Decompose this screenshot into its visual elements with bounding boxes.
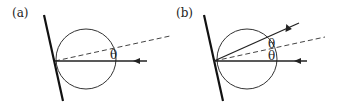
angle-theta-label-lower: θ bbox=[268, 49, 275, 63]
reflection-diagram: (a) θ (b) θ θ bbox=[0, 0, 340, 111]
panel-b-label: (b) bbox=[176, 6, 193, 20]
panel-a: (a) θ bbox=[12, 6, 170, 101]
angle-theta-label: θ bbox=[110, 48, 117, 62]
incident-arrow-icon bbox=[294, 58, 301, 64]
mirror-surface bbox=[44, 15, 63, 101]
incident-arrow-icon bbox=[133, 58, 140, 64]
panel-b: (b) θ θ bbox=[176, 6, 325, 101]
panel-a-label: (a) bbox=[12, 6, 29, 20]
